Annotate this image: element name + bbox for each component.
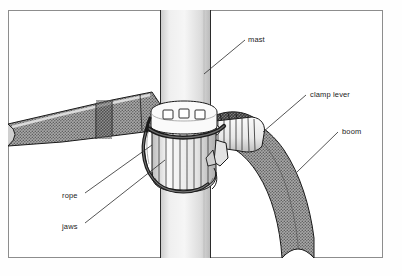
illustration-stage: mast clamp lever boom rope jaws xyxy=(0,0,402,276)
clamp-fitting-illustration xyxy=(0,0,402,276)
collar-slots xyxy=(163,109,205,119)
label-boom: boom xyxy=(342,128,361,136)
label-clamp-lever: clamp lever xyxy=(310,91,350,99)
label-rope: rope xyxy=(62,192,78,200)
collar-jaws-part xyxy=(144,101,228,192)
label-mast: mast xyxy=(248,36,265,44)
label-jaws: jaws xyxy=(62,223,78,231)
